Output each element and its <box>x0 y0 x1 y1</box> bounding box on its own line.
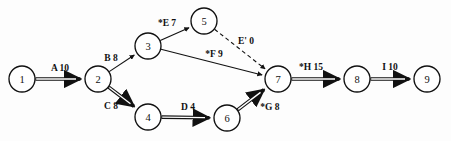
edge-label-i: I 10 <box>382 62 398 72</box>
edge-line-inner <box>162 117 205 118</box>
node-8[interactable]: 8 <box>344 66 370 92</box>
node-label-9: 9 <box>424 74 429 85</box>
node-2[interactable]: 2 <box>85 66 111 92</box>
edge-label-ep: E' 0 <box>238 36 254 46</box>
node-7[interactable]: 7 <box>265 66 291 92</box>
edge-line-inner <box>238 92 260 109</box>
edge-label-e: *E 7 <box>158 18 176 28</box>
edge-label-g: *G 8 <box>260 102 280 112</box>
node-5[interactable]: 5 <box>191 8 217 34</box>
nodes-layer: 123456789 <box>9 8 440 131</box>
node-9[interactable]: 9 <box>414 66 440 92</box>
node-label-8: 8 <box>354 74 359 85</box>
network-diagram: 123456789 A 10B 8C 8*E 7*F 9D 4E' 0*G 8*… <box>0 0 451 141</box>
edge-line-single <box>160 28 189 41</box>
node-label-5: 5 <box>201 16 206 27</box>
edge-label-c: C 8 <box>104 101 118 111</box>
node-label-1: 1 <box>19 74 24 85</box>
edge-label-d: D 4 <box>181 102 195 112</box>
node-label-7: 7 <box>275 74 280 85</box>
node-6[interactable]: 6 <box>214 105 240 131</box>
node-label-6: 6 <box>224 113 229 124</box>
node-3[interactable]: 3 <box>135 33 161 59</box>
edge-d <box>161 117 209 118</box>
edge-label-h: *H 15 <box>299 62 323 72</box>
edge-label-f: *F 9 <box>205 49 223 59</box>
edge-label-b: B 8 <box>104 53 118 63</box>
node-1[interactable]: 1 <box>9 66 35 92</box>
node-label-3: 3 <box>145 41 150 52</box>
node-4[interactable]: 4 <box>135 104 161 130</box>
node-label-2: 2 <box>95 74 100 85</box>
network-diagram-canvas: 123456789 A 10B 8C 8*E 7*F 9D 4E' 0*G 8*… <box>0 0 451 141</box>
edge-label-a: A 10 <box>51 63 69 73</box>
edge-e <box>160 28 189 41</box>
node-label-4: 4 <box>145 112 151 123</box>
